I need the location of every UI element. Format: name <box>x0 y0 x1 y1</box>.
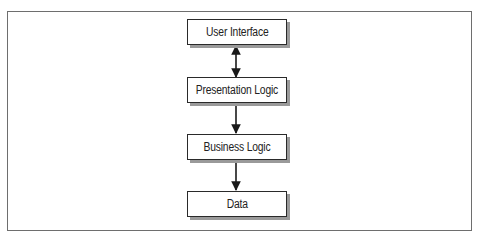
node-label: User Interface <box>206 25 268 39</box>
node-presentation-logic: Presentation Logic <box>187 77 287 103</box>
node-label: Data <box>226 197 247 211</box>
node-label: Business Logic <box>203 140 270 154</box>
node-user-interface: User Interface <box>187 19 287 45</box>
node-data: Data <box>187 191 287 217</box>
node-business-logic: Business Logic <box>187 134 287 160</box>
node-label: Presentation Logic <box>196 83 278 97</box>
